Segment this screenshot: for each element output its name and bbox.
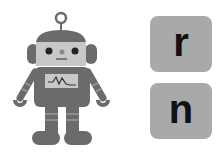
letter-tile-n[interactable]: n (150, 83, 212, 139)
robot-illustration (0, 0, 110, 163)
tile-letter: n (169, 89, 193, 129)
tile-letter: r (173, 22, 189, 62)
letter-tile-r[interactable]: r (150, 16, 212, 72)
